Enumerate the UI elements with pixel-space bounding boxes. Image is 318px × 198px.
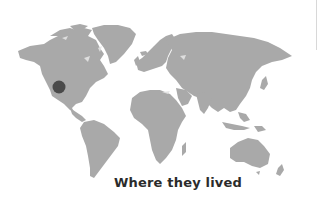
world-map xyxy=(0,0,318,198)
continent-africa xyxy=(130,90,186,164)
continent-north-america xyxy=(18,28,108,112)
central-america xyxy=(70,108,86,122)
location-marker xyxy=(53,81,66,94)
continent-australia xyxy=(230,138,270,168)
world-map-graphic xyxy=(0,0,318,198)
map-caption: Where they lived xyxy=(0,175,318,190)
edge-divider xyxy=(316,0,317,50)
japan xyxy=(260,76,268,90)
indonesia xyxy=(222,122,250,130)
continent-south-america xyxy=(80,120,120,178)
